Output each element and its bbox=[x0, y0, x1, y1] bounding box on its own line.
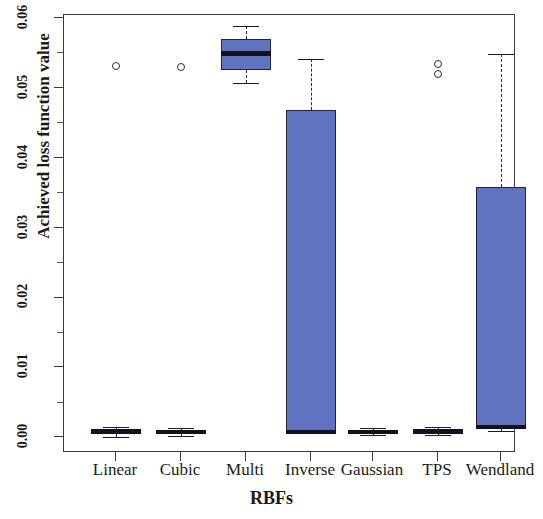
whisker-cap-upper bbox=[425, 427, 451, 428]
outlier-point bbox=[177, 63, 185, 71]
whisker-upper bbox=[311, 59, 312, 110]
y-axis-tick bbox=[54, 87, 63, 88]
y-axis-title: Achieved loss function value bbox=[34, 0, 54, 276]
y-axis-tick-label: 0.06 bbox=[15, 0, 31, 40]
y-axis-tick bbox=[54, 436, 63, 437]
x-axis-title: RBFs bbox=[0, 488, 543, 509]
whisker-upper bbox=[501, 54, 502, 187]
whisker-upper bbox=[246, 26, 247, 39]
median-line bbox=[348, 430, 398, 435]
y-axis-tick-label: 0.01 bbox=[15, 343, 31, 389]
y-axis-tick bbox=[54, 227, 63, 228]
outlier-point bbox=[112, 62, 120, 70]
plot-frame bbox=[63, 14, 515, 452]
x-axis-tick-label: Cubic bbox=[160, 460, 201, 480]
median-line bbox=[91, 429, 141, 434]
y-axis-tick-label: 0.02 bbox=[15, 273, 31, 319]
y-axis-tick-label: 0.03 bbox=[15, 204, 31, 250]
whisker-cap-lower bbox=[425, 435, 451, 436]
y-axis-tick-label: 0.00 bbox=[15, 413, 31, 459]
whisker-cap-lower bbox=[103, 437, 129, 438]
y-axis-tick-label: 0.04 bbox=[15, 134, 31, 180]
x-axis-tick-label: Linear bbox=[93, 460, 137, 480]
whisker-cap-upper bbox=[488, 54, 514, 55]
x-axis-tick-label: Wendland bbox=[466, 460, 535, 480]
median-line bbox=[413, 429, 463, 434]
whisker-cap-lower bbox=[488, 431, 514, 432]
chart-canvas: Achieved loss function value 0.000.010.0… bbox=[0, 0, 543, 519]
whisker-cap-lower bbox=[168, 436, 194, 437]
y-axis-tick bbox=[54, 157, 63, 158]
x-axis-tick-label: Multi bbox=[226, 460, 264, 480]
y-axis-tick bbox=[54, 366, 63, 367]
y-axis-tick bbox=[54, 297, 63, 298]
whisker-cap-lower bbox=[233, 83, 259, 84]
y-axis-tick-label: 0.05 bbox=[15, 64, 31, 110]
y-axis-tick bbox=[54, 17, 63, 18]
whisker-cap-lower bbox=[360, 435, 386, 436]
x-axis-tick-label: Inverse bbox=[285, 460, 335, 480]
median-line bbox=[221, 51, 271, 56]
median-line bbox=[156, 430, 206, 435]
outlier-point bbox=[434, 60, 442, 68]
median-line bbox=[286, 430, 336, 435]
whisker-cap-upper bbox=[233, 26, 259, 27]
box bbox=[476, 187, 526, 429]
whisker-lower bbox=[246, 70, 247, 83]
x-axis-tick-label: Gaussian bbox=[341, 460, 403, 480]
x-axis-tick-label: TPS bbox=[422, 460, 451, 480]
whisker-cap-upper bbox=[103, 427, 129, 428]
whisker-cap-upper bbox=[298, 59, 324, 60]
box bbox=[286, 110, 336, 433]
median-line bbox=[476, 425, 526, 430]
outlier-point bbox=[434, 70, 442, 78]
whisker-cap-upper bbox=[168, 428, 194, 429]
